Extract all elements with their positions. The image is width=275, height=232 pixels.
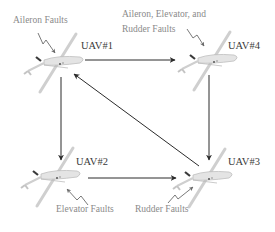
uav1-aircraft-icon — [24, 34, 83, 92]
uav2-fault-label: Elevator Faults — [56, 205, 114, 215]
fault-bolt-icon-uav2 — [67, 189, 88, 205]
uav3-label: UAV#3 — [228, 157, 260, 168]
edge-uav3-to-uav1 — [74, 74, 199, 166]
uav4-fault-label-line1: Aileron, Elevator, and — [122, 10, 206, 20]
uav1-fault-label: Aileron Faults — [13, 16, 68, 26]
uav3-fault-label: Rudder Faults — [135, 205, 189, 215]
fault-bolt-icon-uav1 — [38, 33, 55, 53]
uav1-label: UAV#1 — [81, 41, 113, 52]
communication-graph — [0, 0, 275, 232]
uav2-aircraft-icon — [21, 148, 80, 206]
uav4-label: UAV#4 — [228, 41, 260, 52]
uav4-fault-label-line2: Rudder Faults — [122, 25, 176, 35]
uav3-aircraft-icon — [173, 149, 232, 207]
uav2-label: UAV#2 — [76, 157, 108, 168]
fault-bolt-icon-uav4 — [187, 29, 204, 46]
